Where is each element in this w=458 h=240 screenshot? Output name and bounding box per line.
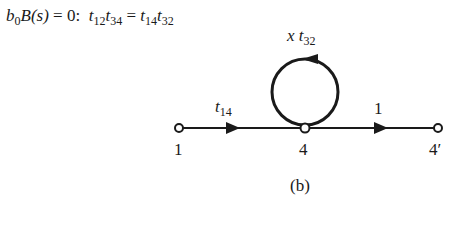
node-1 <box>175 124 183 132</box>
loop-label-sub: 32 <box>304 34 316 48</box>
node-4 <box>301 124 310 133</box>
loop-label-x-t32: x t32 <box>287 26 316 49</box>
node-label-4: 4 <box>299 140 308 160</box>
figure-caption: (b) <box>290 176 310 196</box>
edge-label-t14: t14 <box>215 97 232 120</box>
edge-label-t14-sub: 14 <box>220 105 232 119</box>
self-loop-4 <box>272 59 338 125</box>
node-4prime <box>434 124 442 132</box>
loop-label-x: x <box>287 26 299 45</box>
node-label-4prime: 4′ <box>429 140 441 160</box>
arrow-left-icon <box>302 54 318 64</box>
arrow-right-icon <box>226 122 240 134</box>
edge-label-one: 1 <box>374 99 383 119</box>
arrow-right-icon <box>374 122 388 134</box>
node-label-1: 1 <box>174 140 183 160</box>
